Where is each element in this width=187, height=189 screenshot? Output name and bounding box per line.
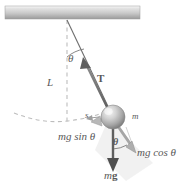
mg-sin-theta-label: mg sin θ bbox=[58, 131, 95, 142]
mass-label: m bbox=[132, 112, 139, 121]
pendulum-force-diagram: L θ θ T m s mg sin θ mg cos θ mg bbox=[0, 0, 187, 189]
arc-length-label: s bbox=[85, 111, 89, 120]
diagram-canvas bbox=[0, 0, 187, 189]
weight-gravity-symbol: g bbox=[112, 169, 118, 181]
weight-mass-symbol: m bbox=[104, 169, 112, 181]
weight-label: mg bbox=[104, 170, 117, 181]
pendulum-bob bbox=[101, 105, 125, 129]
angle-top-label: θ bbox=[68, 53, 73, 64]
tension-vector-arrow bbox=[80, 57, 110, 113]
length-label: L bbox=[47, 77, 53, 88]
angle-bob-label: θ bbox=[113, 137, 118, 147]
ceiling-support bbox=[5, 6, 140, 19]
mg-cos-theta-label: mg cos θ bbox=[137, 147, 176, 158]
tension-label: T bbox=[97, 73, 104, 84]
bob-highlight bbox=[104, 108, 112, 115]
